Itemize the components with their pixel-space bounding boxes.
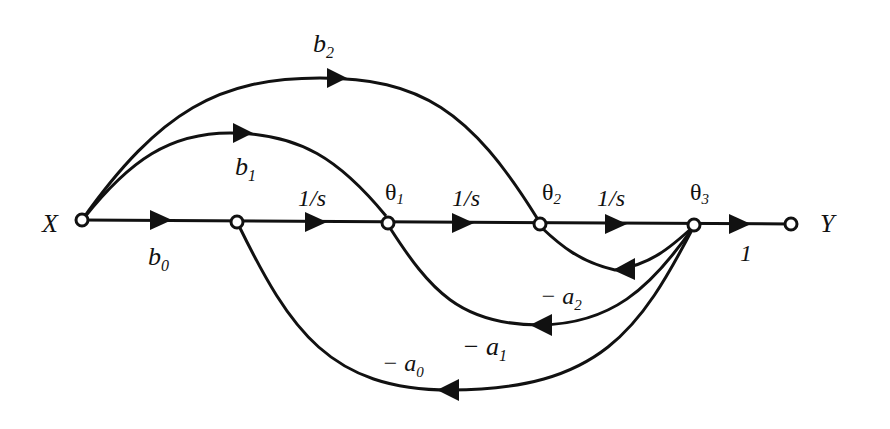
node-theta2 — [534, 218, 546, 230]
label-b2: b2 — [313, 29, 334, 61]
label-a1: − a1 — [462, 332, 507, 364]
label-y: Y — [820, 209, 837, 238]
label-b1: b1 — [235, 152, 256, 184]
edge-a0 — [239, 226, 694, 390]
label-x: X — [41, 209, 59, 238]
node-y — [785, 218, 797, 230]
label-output-gain: 1 — [740, 240, 752, 266]
label-integrator-2: 1/s — [452, 185, 480, 211]
edge-a1 — [390, 226, 694, 325]
label-a2: − a2 — [540, 283, 582, 313]
label-b0: b0 — [148, 242, 169, 274]
edge-a2 — [542, 226, 694, 270]
arrow-a2 — [613, 258, 635, 280]
signal-flow-graph: X Y b2 b1 b0 1/s 1/s 1/s 1 θ1 θ2 θ3 − a2… — [0, 0, 890, 429]
arrow-b2 — [327, 68, 347, 88]
arrow-integrator-3 — [605, 214, 627, 234]
arrow-integrator-2 — [452, 213, 474, 233]
node-theta1 — [382, 217, 394, 229]
arrow-a1 — [530, 314, 552, 336]
node-theta3 — [688, 219, 700, 231]
label-integrator-1: 1/s — [298, 185, 326, 211]
node-summing — [231, 216, 243, 228]
arrow-b0 — [150, 210, 172, 230]
arrow-b1 — [233, 123, 253, 143]
node-x — [76, 214, 88, 226]
arrow-output-gain — [729, 214, 751, 234]
arrow-integrator-1 — [305, 212, 327, 232]
label-integrator-3: 1/s — [597, 185, 625, 211]
label-theta2: θ2 — [542, 179, 562, 207]
forward-path — [82, 220, 791, 224]
label-theta1: θ1 — [385, 179, 404, 207]
label-theta3: θ3 — [690, 179, 709, 207]
label-a0: − a0 — [382, 350, 424, 380]
arrow-a0 — [437, 379, 459, 401]
